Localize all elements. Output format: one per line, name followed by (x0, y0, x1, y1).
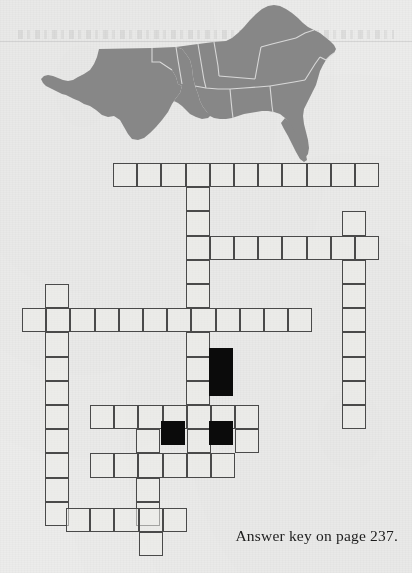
crossword-cell[interactable] (186, 284, 210, 308)
crossword-cell[interactable] (45, 284, 69, 308)
crossword-cell[interactable] (258, 163, 282, 187)
crossword-cell[interactable] (282, 236, 306, 260)
crossword-cell[interactable] (210, 236, 234, 260)
crossword-cell[interactable] (211, 453, 235, 477)
crossword-cell[interactable] (114, 453, 138, 477)
crossword-cell[interactable] (235, 429, 259, 453)
crossword-cell[interactable] (45, 381, 69, 405)
crossword-cell[interactable] (187, 429, 211, 453)
crossword-cell[interactable] (186, 357, 210, 381)
crossword-cell[interactable] (143, 308, 167, 332)
crossword-cell[interactable] (187, 405, 211, 429)
crossword-block-cell (161, 421, 185, 445)
crossword-cell[interactable] (45, 357, 69, 381)
crossword-cell[interactable] (114, 508, 138, 532)
crossword-cell[interactable] (234, 236, 258, 260)
crossword-page: Answer key on page 237. (0, 0, 412, 573)
crossword-cell[interactable] (186, 332, 210, 356)
crossword-cell[interactable] (45, 478, 69, 502)
crossword-cell[interactable] (139, 508, 163, 532)
crossword-cell[interactable] (45, 332, 69, 356)
crossword-cell[interactable] (342, 405, 366, 429)
answer-key-note: Answer key on page 237. (235, 527, 398, 545)
crossword-cell[interactable] (342, 211, 366, 235)
crossword-cell[interactable] (342, 308, 366, 332)
crossword-cell[interactable] (163, 508, 187, 532)
crossword-cell[interactable] (70, 308, 94, 332)
crossword-cell[interactable] (186, 163, 210, 187)
crossword-cell[interactable] (186, 381, 210, 405)
crossword-cell[interactable] (187, 453, 211, 477)
crossword-cell[interactable] (235, 405, 259, 429)
crossword-cell[interactable] (45, 429, 69, 453)
crossword-cell[interactable] (45, 405, 69, 429)
crossword-cell[interactable] (138, 453, 162, 477)
crossword-cell[interactable] (137, 163, 161, 187)
crossword-grid[interactable] (0, 0, 412, 573)
crossword-cell[interactable] (307, 236, 331, 260)
crossword-cell[interactable] (186, 187, 210, 211)
crossword-cell[interactable] (191, 308, 215, 332)
crossword-cell[interactable] (46, 308, 70, 332)
crossword-cell[interactable] (342, 332, 366, 356)
crossword-cell[interactable] (331, 236, 355, 260)
crossword-cell[interactable] (342, 357, 366, 381)
crossword-cell[interactable] (355, 236, 379, 260)
crossword-cell[interactable] (167, 308, 191, 332)
crossword-cell[interactable] (90, 508, 114, 532)
crossword-cell[interactable] (163, 453, 187, 477)
crossword-cell[interactable] (186, 236, 210, 260)
crossword-block-cell (209, 372, 233, 396)
crossword-cell[interactable] (342, 284, 366, 308)
crossword-cell[interactable] (136, 478, 160, 502)
crossword-cell[interactable] (114, 405, 138, 429)
crossword-cell[interactable] (355, 163, 379, 187)
crossword-cell[interactable] (342, 260, 366, 284)
crossword-cell[interactable] (136, 429, 160, 453)
crossword-cell[interactable] (258, 236, 282, 260)
crossword-cell[interactable] (216, 308, 240, 332)
crossword-cell[interactable] (282, 163, 306, 187)
crossword-cell[interactable] (66, 508, 90, 532)
crossword-cell[interactable] (234, 163, 258, 187)
crossword-cell[interactable] (264, 308, 288, 332)
crossword-block-cell (209, 348, 233, 372)
crossword-cell[interactable] (186, 211, 210, 235)
crossword-cell[interactable] (210, 163, 234, 187)
crossword-cell[interactable] (113, 163, 137, 187)
crossword-cell[interactable] (288, 308, 312, 332)
crossword-cell[interactable] (186, 260, 210, 284)
crossword-block-cell (209, 421, 233, 445)
crossword-cell[interactable] (138, 405, 162, 429)
crossword-cell[interactable] (90, 405, 114, 429)
crossword-cell[interactable] (161, 163, 185, 187)
crossword-cell[interactable] (331, 163, 355, 187)
crossword-cell[interactable] (139, 532, 163, 556)
crossword-cell[interactable] (307, 163, 331, 187)
crossword-cell[interactable] (22, 308, 46, 332)
crossword-cell[interactable] (342, 381, 366, 405)
crossword-cell[interactable] (119, 308, 143, 332)
crossword-cell[interactable] (45, 453, 69, 477)
crossword-cell[interactable] (90, 453, 114, 477)
crossword-cell[interactable] (95, 308, 119, 332)
crossword-cell[interactable] (240, 308, 264, 332)
